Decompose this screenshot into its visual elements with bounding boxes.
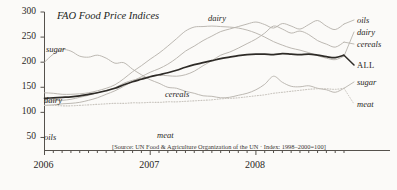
series-line-cereals <box>45 26 345 101</box>
inline-label-cereals: cereals <box>165 90 189 99</box>
series-line-all <box>45 54 345 99</box>
fao-food-price-chart: FAO Food Price Indices 50100150200250300… <box>0 0 397 190</box>
y-tick-label: 50 <box>8 132 36 142</box>
series-label-dairy: dairy <box>357 28 375 37</box>
leader-line-meat <box>344 88 354 104</box>
y-tick-label: 100 <box>8 107 36 117</box>
leader-line-sugar <box>344 82 354 88</box>
series-label-all: ALL <box>357 61 374 70</box>
axes-group <box>41 12 391 155</box>
series-line-meat <box>45 88 345 106</box>
inline-label-dairy-left: dairy <box>44 96 62 105</box>
y-tick-label: 300 <box>8 7 36 17</box>
inline-label-sugar: sugar <box>46 45 65 54</box>
series-label-meat: meat <box>357 100 374 109</box>
y-tick-label: 150 <box>8 82 36 92</box>
y-tick-label: 250 <box>8 32 36 42</box>
source-note: [Source: UN Food & Agriculture Organizat… <box>112 143 326 150</box>
series-label-sugar: sugar <box>357 78 376 87</box>
inline-label-oils-left: oils <box>44 133 56 142</box>
series-line-dairy <box>45 26 345 94</box>
x-tick-label: 2007 <box>139 160 159 170</box>
series-label-cereals: cereals <box>357 40 381 49</box>
inline-label-dairy-top: dairy <box>208 14 226 23</box>
inline-label-meat-mid: meat <box>157 131 174 140</box>
y-tick-marks <box>41 12 45 137</box>
x-tick-label: 2006 <box>34 160 54 170</box>
leader-line-oils <box>344 20 354 24</box>
series-label-oils: oils <box>357 16 369 25</box>
x-tick-label: 2008 <box>245 160 265 170</box>
data-series-group <box>45 20 355 106</box>
leader-line-all <box>344 55 354 65</box>
y-tick-label: 200 <box>8 57 36 67</box>
